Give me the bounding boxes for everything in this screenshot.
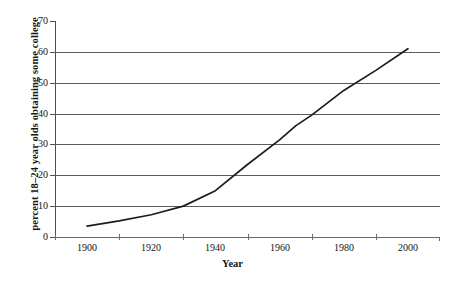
series-layer (0, 0, 452, 285)
data-line-some-college (87, 49, 408, 226)
plot-area: 010203040506070 190019201940196019802000 (0, 0, 452, 285)
y-axis-title: percent 18–24 year olds obtaining some c… (27, 4, 43, 244)
chart-figure: 010203040506070 190019201940196019802000… (0, 0, 452, 285)
x-axis-title: Year (180, 258, 285, 269)
